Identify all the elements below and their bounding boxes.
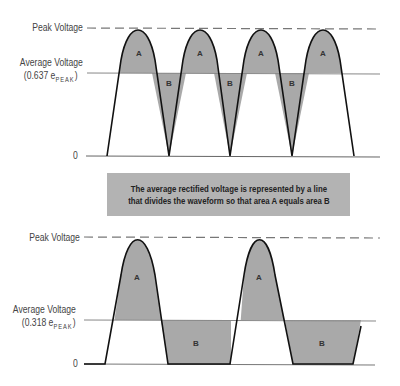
zero-label: 0 — [73, 357, 78, 370]
average-voltage-formula: (0.318 ePEAK) — [22, 316, 76, 333]
average-voltage-label: Average Voltage — [20, 56, 83, 69]
zero-label: 0 — [73, 149, 78, 162]
area-label-a: A — [197, 49, 203, 58]
caption-line-2: that divides the waveform so that area A… — [128, 195, 330, 207]
zero-line — [86, 156, 380, 157]
area-label-a: A — [258, 49, 264, 58]
area-label-a: A — [256, 273, 262, 282]
formula-prefix: (0.637 e — [24, 69, 56, 81]
bottom-diagram: A B A B — [84, 237, 380, 365]
area-label-b: B — [193, 339, 199, 348]
top-diagram: A B A B A B A — [86, 28, 380, 157]
formula-subscript: PEAK — [54, 323, 73, 330]
peak-voltage-label: Peak Voltage — [32, 21, 83, 34]
area-label-a: A — [320, 49, 326, 58]
caption-box: The average rectified voltage is represe… — [107, 173, 350, 216]
area-label-b: B — [289, 79, 295, 88]
area-label-b: B — [166, 79, 172, 88]
area-label-a: A — [136, 49, 142, 58]
area-label-b: B — [319, 339, 325, 348]
formula-subscript: PEAK — [56, 76, 75, 83]
area-label-a: A — [134, 273, 140, 282]
average-voltage-label: Average Voltage — [13, 303, 76, 316]
peak-voltage-label: Peak Voltage — [29, 231, 80, 244]
peak-voltage-line — [87, 28, 380, 29]
peak-voltage-line — [84, 237, 380, 238]
caption-line-1: The average rectified voltage is represe… — [128, 183, 330, 195]
formula-prefix: (0.318 e — [22, 316, 54, 328]
average-voltage-line — [87, 73, 380, 74]
area-label-b: B — [227, 79, 233, 88]
average-voltage-formula: (0.637 ePEAK) — [24, 69, 78, 86]
